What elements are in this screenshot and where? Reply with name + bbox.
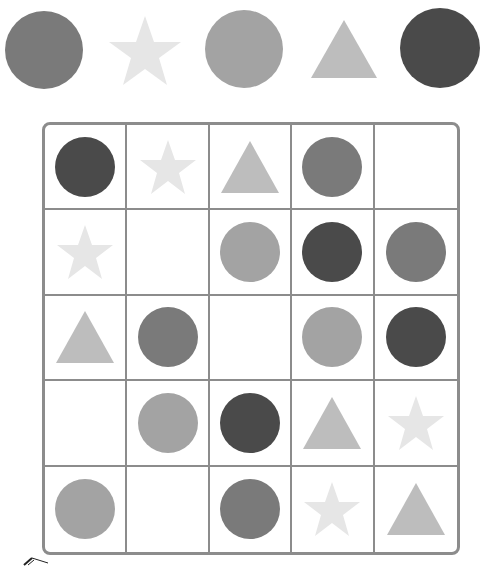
grid-cell-r4-c1[interactable]	[45, 381, 127, 466]
shape-legend-row	[0, 0, 485, 100]
circle-medium-icon	[301, 135, 363, 199]
legend-circle-light-icon	[204, 9, 284, 89]
circle-medium-icon	[137, 305, 199, 369]
grid-cell-r5-c3[interactable]	[210, 467, 292, 552]
pencil-cursor-icon	[20, 556, 50, 566]
circle-dark-icon	[385, 305, 447, 369]
circle-dark-icon	[54, 135, 116, 199]
grid-cell-r1-c4[interactable]	[292, 125, 374, 210]
grid-cell-r3-c4[interactable]	[292, 296, 374, 381]
star-icon	[139, 139, 197, 195]
grid-cell-r4-c3[interactable]	[210, 381, 292, 466]
star-icon	[387, 395, 445, 451]
puzzle-grid	[42, 122, 460, 555]
grid-cell-r1-c5[interactable]	[375, 125, 457, 210]
star-icon	[303, 481, 361, 537]
grid-cell-r3-c2[interactable]	[127, 296, 209, 381]
grid-cell-r3-c3[interactable]	[210, 296, 292, 381]
circle-dark-icon	[301, 220, 363, 284]
grid-cell-r1-c3[interactable]	[210, 125, 292, 210]
legend-circle-medium-icon	[4, 10, 84, 90]
grid-cell-r4-c4[interactable]	[292, 381, 374, 466]
triangle-icon	[220, 140, 280, 194]
grid-cell-r2-c5[interactable]	[375, 210, 457, 295]
circle-light-icon	[54, 477, 116, 541]
triangle-icon	[386, 482, 446, 536]
circle-medium-icon	[385, 220, 447, 284]
legend-circle-dark-icon	[400, 7, 480, 89]
grid-cell-r4-c5[interactable]	[375, 381, 457, 466]
grid-cell-r2-c3[interactable]	[210, 210, 292, 295]
grid-cell-r5-c2[interactable]	[127, 467, 209, 552]
grid-cell-r1-c1[interactable]	[45, 125, 127, 210]
grid-cell-r2-c1[interactable]	[45, 210, 127, 295]
grid-cell-r3-c5[interactable]	[375, 296, 457, 381]
circle-light-icon	[301, 305, 363, 369]
triangle-icon	[302, 396, 362, 450]
grid-cell-r5-c1[interactable]	[45, 467, 127, 552]
circle-light-icon	[219, 220, 281, 284]
grid-cell-r2-c2[interactable]	[127, 210, 209, 295]
circle-dark-icon	[219, 391, 281, 455]
grid-cell-r5-c5[interactable]	[375, 467, 457, 552]
grid-cell-r4-c2[interactable]	[127, 381, 209, 466]
circle-light-icon	[137, 391, 199, 455]
legend-star-icon	[108, 14, 182, 88]
grid-cell-r5-c4[interactable]	[292, 467, 374, 552]
grid-cell-r1-c2[interactable]	[127, 125, 209, 210]
circle-medium-icon	[219, 477, 281, 541]
triangle-icon	[55, 310, 115, 364]
star-icon	[56, 224, 114, 280]
grid-cell-r2-c4[interactable]	[292, 210, 374, 295]
legend-triangle-icon	[310, 18, 378, 80]
grid-cell-r3-c1[interactable]	[45, 296, 127, 381]
